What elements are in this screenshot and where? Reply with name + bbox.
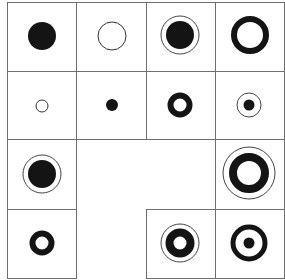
figures-layer (0, 0, 285, 280)
thick-ring-with-center-dot-icon (233, 227, 265, 259)
thick-ring-icon (234, 19, 266, 51)
large-thin-ring-icon (98, 22, 126, 50)
small-solid-disc-icon (106, 99, 118, 111)
disc-with-outer-ring-icon (23, 155, 61, 193)
large-solid-disc-icon (28, 22, 56, 50)
thick-ring-with-outer-ring-icon (161, 224, 199, 262)
small-thick-ring-icon (33, 234, 52, 253)
small-thick-ring-icon (171, 96, 190, 115)
disc-with-outer-ring-icon (161, 16, 199, 54)
thick-ring-with-outer-ring-icon (223, 147, 275, 199)
small-thin-ring-icon (36, 100, 48, 112)
dot-with-thin-ring-icon (237, 93, 261, 117)
